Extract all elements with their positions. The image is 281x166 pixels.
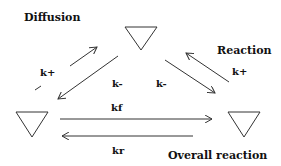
diffusion-reverse-rate-label: k- [112, 79, 123, 89]
reaction-forward-arrow [165, 60, 215, 93]
top-triangle-node [125, 27, 157, 50]
diffusion-reverse-arrow [58, 56, 118, 99]
diffusion-dash [35, 86, 41, 90]
reaction-reverse-rate-label: k- [156, 79, 167, 89]
reaction-forward-rate-label: k+ [232, 67, 247, 77]
diffusion-label: Diffusion [24, 12, 80, 23]
overall-reaction-label: Overall reaction [168, 150, 267, 161]
diffusion-forward-rate-label: k+ [40, 68, 55, 78]
diagram-canvas [0, 0, 281, 166]
overall-forward-rate-label: kf [111, 103, 122, 113]
diffusion-forward-arrow [70, 47, 97, 66]
left-triangle-node [16, 112, 48, 137]
reaction-label: Reaction [217, 45, 272, 56]
overall-reverse-rate-label: kr [112, 146, 124, 156]
right-triangle-node [228, 112, 260, 137]
